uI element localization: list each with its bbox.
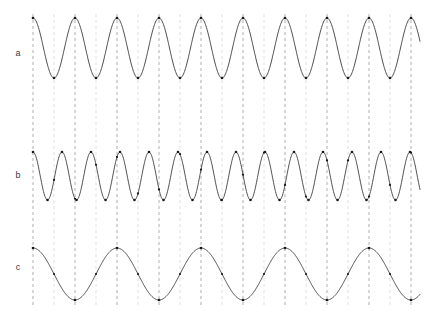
guide-intersection-marker [347, 159, 349, 161]
extremum-marker [90, 151, 93, 154]
extremum-marker [191, 199, 194, 202]
guide-intersection-marker [53, 77, 55, 79]
guide-intersection-marker [389, 184, 391, 186]
guide-intersection-marker [95, 273, 97, 275]
guide-intersection-marker [32, 17, 34, 19]
extremum-marker [322, 151, 325, 154]
guide-intersection-marker [368, 17, 370, 19]
guide-intersection-marker [410, 17, 412, 19]
guide-intersection-marker [263, 151, 265, 153]
extremum-marker [162, 199, 165, 202]
guide-intersection-marker [137, 77, 139, 79]
guide-intersection-marker [74, 17, 76, 19]
guide-intersection-marker [284, 247, 286, 249]
extremum-marker [365, 199, 368, 202]
guide-intersection-marker [137, 273, 139, 275]
guide-intersection-marker [116, 247, 118, 249]
guide-intersection-marker [368, 195, 370, 197]
guide-intersection-marker [32, 151, 34, 153]
extremum-marker [249, 199, 252, 202]
guide-intersection-marker [221, 199, 223, 201]
extremum-marker [307, 199, 310, 202]
guide-intersection-marker [326, 159, 328, 161]
guide-intersection-marker [326, 299, 328, 301]
extremum-marker [119, 151, 122, 154]
guide-intersection-marker [389, 77, 391, 79]
guide-intersection-marker [158, 188, 160, 190]
guide-intersection-marker [116, 156, 118, 158]
extremum-marker [177, 151, 180, 154]
guide-intersection-marker [326, 17, 328, 19]
figure-container: abc [0, 0, 433, 311]
guide-intersection-marker [179, 273, 181, 275]
sine-waves-plot: abc [0, 0, 433, 311]
guide-intersection-marker [95, 164, 97, 166]
guide-intersection-marker [200, 168, 202, 170]
extremum-marker [46, 199, 49, 202]
guide-intersection-marker [242, 17, 244, 19]
guide-intersection-marker [347, 273, 349, 275]
extremum-marker [61, 151, 64, 154]
row-label-a: a [15, 48, 20, 58]
extremum-marker [148, 151, 151, 154]
extremum-marker [133, 199, 136, 202]
extremum-marker [394, 199, 397, 202]
extremum-marker [351, 151, 354, 154]
guide-intersection-marker [221, 273, 223, 275]
guide-intersection-marker [179, 77, 181, 79]
guide-intersection-marker [137, 192, 139, 194]
guide-intersection-marker [305, 195, 307, 197]
guide-intersection-marker [389, 273, 391, 275]
guide-intersection-marker [32, 247, 34, 249]
guide-intersection-marker [74, 299, 76, 301]
guide-intersection-marker [95, 77, 97, 79]
extremum-marker [278, 199, 281, 202]
extremum-marker [380, 151, 383, 154]
guide-intersection-marker [200, 17, 202, 19]
extremum-marker [293, 151, 296, 154]
extremum-marker [104, 199, 107, 202]
extremum-marker [336, 199, 339, 202]
guide-intersection-marker [305, 273, 307, 275]
guide-intersection-marker [74, 198, 76, 200]
guide-intersection-marker [53, 273, 55, 275]
guide-intersection-marker [263, 273, 265, 275]
extremum-marker [206, 151, 209, 154]
guide-intersection-marker [221, 77, 223, 79]
guide-intersection-marker [200, 247, 202, 249]
guide-intersection-marker [158, 17, 160, 19]
guide-intersection-marker [284, 184, 286, 186]
guide-intersection-marker [242, 174, 244, 176]
row-label-c: c [16, 262, 21, 272]
guide-intersection-marker [368, 247, 370, 249]
guide-intersection-marker [305, 77, 307, 79]
guide-intersection-marker [263, 77, 265, 79]
guide-intersection-marker [284, 17, 286, 19]
guide-intersection-marker [158, 299, 160, 301]
guide-intersection-marker [242, 299, 244, 301]
guide-intersection-marker [53, 179, 55, 181]
guide-intersection-marker [410, 299, 412, 301]
guide-intersection-marker [116, 17, 118, 19]
guide-intersection-marker [179, 153, 181, 155]
guide-intersection-marker [347, 77, 349, 79]
guide-intersection-marker [410, 151, 412, 153]
extremum-marker [235, 151, 238, 154]
row-label-b: b [15, 170, 20, 180]
